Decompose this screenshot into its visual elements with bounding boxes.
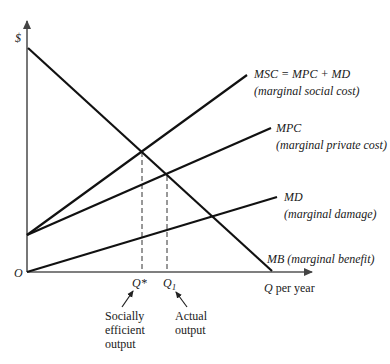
q-star-label: Q* <box>132 276 147 290</box>
origin-label: O <box>14 266 23 280</box>
msc-curve <box>27 75 247 235</box>
q-star-note-line: Socially <box>105 309 145 323</box>
mb-curve <box>28 48 272 271</box>
msc-label: MSC = MPC + MD <box>254 67 350 81</box>
q-star-note: Socially efficient output <box>105 309 145 351</box>
x-axis-var: Q <box>264 281 273 295</box>
md-label: MD <box>284 190 303 204</box>
msc-description: (marginal social cost) <box>254 84 360 98</box>
mpc-label: MPC <box>276 121 301 135</box>
q-star-note-line: output <box>105 337 145 351</box>
q-star-pointer <box>122 291 133 307</box>
mpc-description: (marginal private cost) <box>276 138 387 152</box>
mb-label: MB (marginal benefit) <box>267 252 375 266</box>
q1-note-line: Actual <box>175 309 207 323</box>
mpc-curve <box>27 128 271 235</box>
x-axis-label: Q per year <box>264 281 315 295</box>
q1-sub: 1 <box>172 282 177 292</box>
q1-note-line: output <box>175 323 207 337</box>
mb-description: (marginal benefit) <box>287 252 374 266</box>
q1-note: Actual output <box>175 309 207 337</box>
q1-var: Q <box>163 276 172 290</box>
md-description: (marginal damage) <box>284 207 377 221</box>
mb-name: MB <box>267 252 284 266</box>
q1-label: Q1 <box>163 276 176 294</box>
y-axis-label: $ <box>15 31 21 45</box>
x-axis-suffix: per year <box>273 281 315 295</box>
q1-pointer <box>176 292 187 307</box>
q-star-note-line: efficient <box>105 323 145 337</box>
